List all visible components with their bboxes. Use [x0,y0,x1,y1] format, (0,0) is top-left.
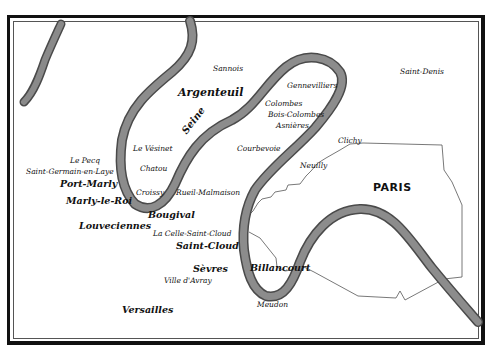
place-label-la-celle-saint-cloud: La Celle-Saint-Cloud [153,230,231,238]
place-label-ville-d-avray: Ville d'Avray [164,277,212,285]
place-label-saint-cloud: Saint-Cloud [176,241,239,251]
place-label-versailles: Versailles [122,305,173,315]
place-label-bougival: Bougival [148,210,195,220]
place-label-croissy: Croissy [136,189,164,197]
place-label-colombes: Colombes [265,100,302,108]
place-label-saint-denis: Saint-Denis [400,68,444,76]
place-label-billancourt: Billancourt [250,263,310,273]
place-label-meudon: Meudon [257,301,288,309]
place-label-argenteuil: Argenteuil [178,87,243,98]
place-label-marly-le-roi: Marly-le-Roi [66,196,132,206]
place-label-port-marly: Port-Marly [60,179,117,189]
place-label-gennevilliers: Gennevilliers [287,82,337,90]
place-label-asnieres: Asnières [276,122,309,130]
place-label-le-vesinet: Le Vésinet [133,145,173,153]
place-label-sevres: Sèvres [193,264,228,274]
map-canvas [0,0,492,352]
place-label-sannois: Sannois [213,65,243,73]
place-label-chatou: Chatou [140,165,167,173]
place-label-louveciennes: Louveciennes [79,221,151,231]
place-label-bois-colombes: Bois-Colombes [268,111,324,119]
place-label-saint-germain-en-laye: Saint-Germain-en-Laye [26,168,114,176]
place-label-clichy: Clichy [338,137,362,145]
place-label-le-pecq: Le Pecq [70,157,100,165]
place-label-courbevoie: Courbevoie [237,145,281,153]
region-label-paris: PARIS [373,182,412,193]
place-label-neuilly: Neuilly [300,162,327,170]
place-label-rueil-malmaison: Rueil-Malmaison [176,189,240,197]
